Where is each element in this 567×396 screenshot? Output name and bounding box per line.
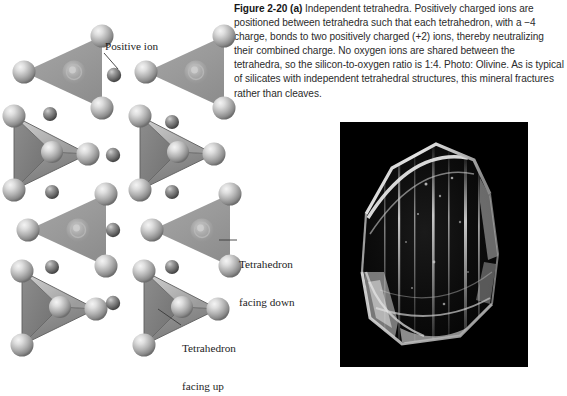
tetrahedron-facing-down-r1c2 xyxy=(135,25,236,120)
olivine-photo xyxy=(340,122,528,367)
tetrahedron-facing-down-r1c1 xyxy=(13,25,114,120)
positive-ion xyxy=(106,223,120,237)
olivine-photo-svg xyxy=(340,122,528,367)
tetrahedron-facing-down-r3c2 xyxy=(141,183,242,278)
positive-ion xyxy=(45,185,59,199)
positive-ion xyxy=(165,115,179,129)
label-tetrahedron-facing-down: Tetrahedron facing down xyxy=(239,233,295,334)
positive-ion xyxy=(107,68,121,82)
label-tetrahedron-facing-down-line1: Tetrahedron xyxy=(239,258,295,271)
positive-ion xyxy=(165,260,179,274)
positive-ion xyxy=(165,185,179,199)
positive-ion xyxy=(45,260,59,274)
label-tetrahedron-facing-down-line2: facing down xyxy=(239,296,295,309)
label-positive-ion: Positive ion xyxy=(105,40,158,53)
tetrahedron-facing-up-r4c1 xyxy=(11,260,108,357)
label-tetrahedron-facing-up: Tetrahedron facing up xyxy=(182,317,236,396)
tetrahedron-facing-down-r3c1 xyxy=(17,183,118,278)
label-tetrahedron-facing-up-line1: Tetrahedron xyxy=(182,342,236,355)
leader-line-positive-ion xyxy=(104,53,118,69)
positive-ion xyxy=(106,148,120,162)
positive-ion xyxy=(43,107,57,121)
tetrahedra-diagram: Positive ion Tetrahedron facing down Tet… xyxy=(0,0,300,367)
positive-ion xyxy=(106,296,120,310)
label-tetrahedron-facing-up-line2: facing up xyxy=(182,380,236,393)
